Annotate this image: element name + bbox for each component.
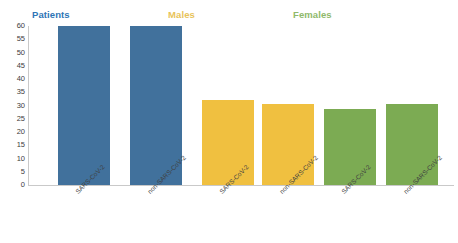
group-title-patients: Patients	[32, 9, 70, 20]
group-title-females: Females	[293, 9, 332, 20]
y-tick-label: 10	[17, 155, 25, 163]
bar-chart: Patients Males Females 05101520253035404…	[0, 0, 458, 243]
bar	[58, 26, 110, 185]
group-title-males: Males	[168, 9, 195, 20]
bar	[202, 100, 254, 185]
x-axis-labels: SARS-CoV-2non-SARS-CoV-2SARS-CoV-2non-SA…	[30, 186, 454, 243]
y-tick-label: 50	[17, 49, 25, 57]
y-tick-label: 40	[17, 75, 25, 83]
y-tick-label: 30	[17, 102, 25, 110]
y-tick-label: 20	[17, 128, 25, 136]
y-tick-label: 25	[17, 115, 25, 123]
y-tick-label: 45	[17, 62, 25, 70]
bar-series	[30, 26, 454, 185]
y-tick-label: 5	[21, 168, 25, 176]
bar	[324, 109, 376, 185]
y-tick-label: 15	[17, 142, 25, 150]
plot-area	[30, 26, 454, 185]
y-tick-label: 60	[17, 22, 25, 30]
y-tick-label: 55	[17, 36, 25, 44]
group-title-row: Patients Males Females	[0, 0, 458, 26]
y-axis-line	[28, 26, 29, 186]
y-tick-label: 0	[21, 181, 25, 189]
bar	[386, 104, 438, 185]
y-axis: 051015202530354045505560	[0, 26, 28, 185]
y-tick-label: 35	[17, 89, 25, 97]
bar	[262, 104, 314, 185]
